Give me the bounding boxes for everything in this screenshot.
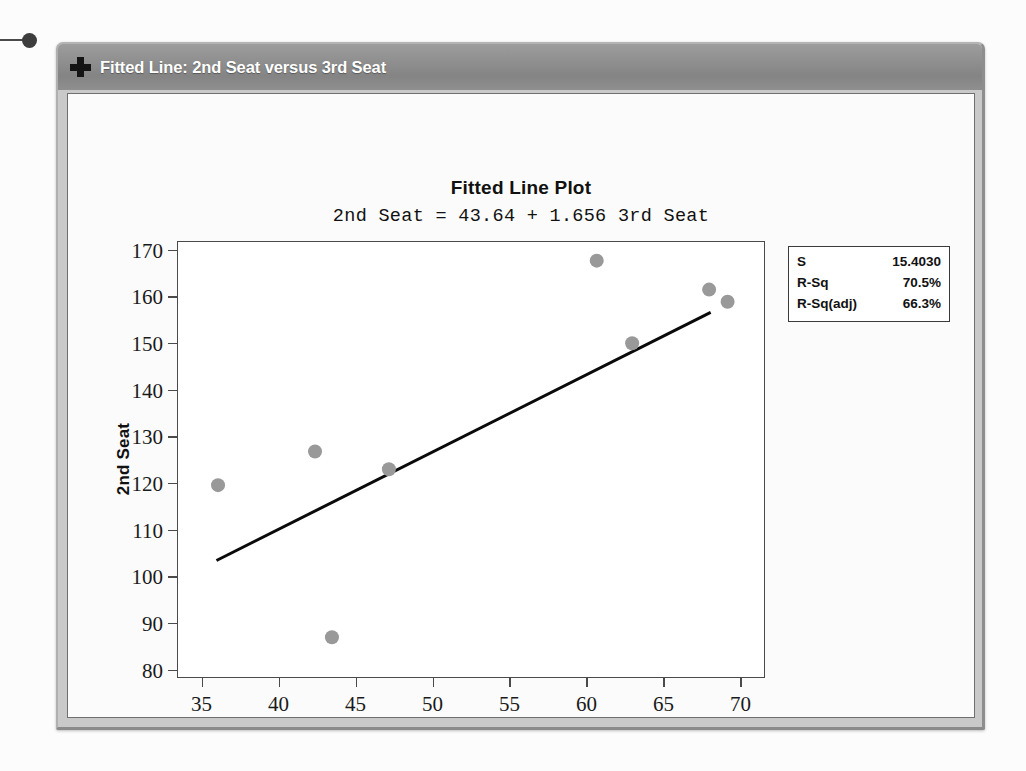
stats-legend-box: S15.4030R-Sq70.5%R-Sq(adj)66.3% (788, 246, 950, 322)
data-point (211, 478, 225, 492)
data-point (590, 254, 604, 268)
data-point (721, 295, 735, 309)
x-tick-label: 40 (249, 692, 309, 717)
y-tick-label: 90 (105, 612, 163, 637)
stats-label: R-Sq (797, 273, 829, 294)
data-point (702, 283, 716, 297)
chart-client-area: Fitted Line Plot 2nd Seat = 43.64 + 1.65… (67, 93, 975, 718)
scatter-plot (178, 242, 763, 676)
y-tick-mark (168, 296, 177, 298)
x-tick-label: 45 (326, 692, 386, 717)
y-tick-label: 170 (105, 239, 163, 264)
y-tick-label: 140 (105, 379, 163, 404)
x-tick-mark (356, 678, 358, 687)
y-tick-mark (168, 576, 177, 578)
y-tick-label: 100 (105, 565, 163, 590)
x-tick-mark (740, 678, 742, 687)
data-point (625, 336, 639, 350)
y-tick-label: 80 (105, 659, 163, 684)
stats-row: R-Sq70.5% (797, 273, 941, 294)
x-tick-mark (509, 678, 511, 687)
plot-frame (177, 241, 765, 678)
data-point (382, 462, 396, 476)
x-tick-label: 70 (710, 692, 770, 717)
stats-value: 15.4030 (892, 252, 941, 273)
y-tick-label: 120 (105, 472, 163, 497)
data-point (308, 445, 322, 459)
stats-row: S15.4030 (797, 252, 941, 273)
y-tick-mark (168, 250, 177, 252)
y-tick-mark (168, 530, 177, 532)
y-tick-mark (168, 483, 177, 485)
x-tick-label: 35 (172, 692, 232, 717)
x-tick-mark (279, 678, 281, 687)
y-tick-label: 110 (105, 519, 163, 544)
x-tick-mark (586, 678, 588, 687)
scan-artifact-dot (22, 33, 37, 48)
window-title: Fitted Line: 2nd Seat versus 3rd Seat (100, 58, 386, 77)
fitted-line-window: Fitted Line: 2nd Seat versus 3rd Seat Fi… (56, 42, 985, 730)
y-tick-mark (168, 623, 177, 625)
stats-label: S (797, 252, 806, 273)
data-point (325, 630, 339, 644)
x-tick-label: 60 (556, 692, 616, 717)
window-titlebar[interactable]: Fitted Line: 2nd Seat versus 3rd Seat (58, 44, 982, 90)
stats-value: 66.3% (903, 294, 941, 315)
y-tick-label: 130 (105, 425, 163, 450)
chart-subtitle: 2nd Seat = 43.64 + 1.656 3rd Seat (68, 206, 974, 227)
regression-line (216, 312, 710, 560)
x-tick-mark (663, 678, 665, 687)
stats-row: R-Sq(adj)66.3% (797, 294, 941, 315)
y-tick-mark (168, 390, 177, 392)
plus-icon (70, 57, 90, 77)
y-tick-label: 160 (105, 285, 163, 310)
stats-value: 70.5% (903, 273, 941, 294)
y-tick-mark (168, 436, 177, 438)
y-tick-mark (168, 343, 177, 345)
x-tick-mark (202, 678, 204, 687)
x-tick-label: 55 (479, 692, 539, 717)
y-tick-label: 150 (105, 332, 163, 357)
chart-title: Fitted Line Plot (68, 177, 974, 199)
y-tick-mark (168, 670, 177, 672)
x-tick-label: 65 (633, 692, 693, 717)
x-tick-mark (433, 678, 435, 687)
x-tick-label: 50 (403, 692, 463, 717)
stats-label: R-Sq(adj) (797, 294, 857, 315)
